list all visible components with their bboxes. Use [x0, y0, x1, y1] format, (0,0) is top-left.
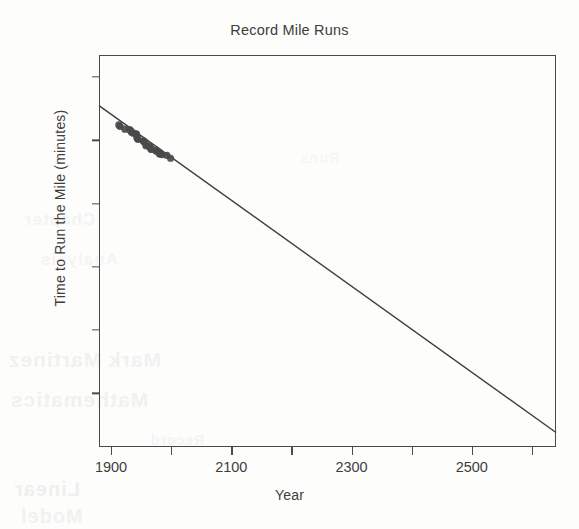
x-tick-mark: [472, 447, 473, 455]
y-tick-mark: [92, 203, 99, 204]
plot-area: [99, 55, 556, 447]
x-axis-label: Year: [0, 487, 579, 503]
x-tick-label: 1900: [71, 459, 151, 475]
y-tick-mark: [92, 140, 99, 141]
x-tick-mark: [231, 447, 232, 455]
y-tick-mark: [92, 393, 99, 394]
x-tick-mark: [291, 447, 292, 455]
x-tick-label: 2500: [432, 459, 512, 475]
x-tick-mark: [412, 447, 413, 455]
x-tick-mark: [171, 447, 172, 455]
x-tick-mark: [352, 447, 353, 455]
y-tick-mark: [92, 329, 99, 330]
y-tick-mark: [92, 76, 99, 77]
y-axis-label: Time to Run the Mile (minutes): [52, 0, 68, 418]
x-tick-label: 2300: [312, 459, 392, 475]
y-tick-mark: [92, 266, 99, 267]
x-tick-mark: [532, 447, 533, 455]
x-tick-mark: [111, 447, 112, 455]
data-point: [167, 155, 174, 162]
chart-title: Record Mile Runs: [0, 22, 579, 38]
scatter-chart: Record Mile Runs Time to Run the Mile (m…: [0, 0, 579, 529]
data-point-group: [115, 121, 174, 162]
x-tick-label: 2100: [191, 459, 271, 475]
